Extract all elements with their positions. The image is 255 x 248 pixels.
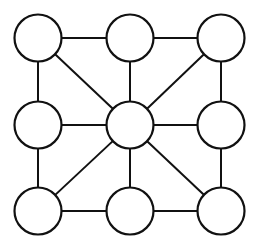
- graph-node-circle-top-left[interactable]: [15, 15, 62, 62]
- graph-node-middle-left[interactable]: [15, 102, 62, 149]
- graph-diagram: [0, 0, 255, 248]
- graph-node-circle-bottom-left[interactable]: [15, 188, 62, 235]
- node-layer: [15, 15, 245, 235]
- graph-node-middle-right[interactable]: [198, 102, 245, 149]
- graph-canvas: [0, 0, 255, 248]
- graph-node-center[interactable]: [107, 102, 154, 149]
- graph-node-circle-middle-left[interactable]: [15, 102, 62, 149]
- graph-node-bottom-center[interactable]: [107, 188, 154, 235]
- graph-node-circle-middle-right[interactable]: [198, 102, 245, 149]
- graph-node-circle-top-right[interactable]: [198, 15, 245, 62]
- graph-node-circle-bottom-right[interactable]: [198, 188, 245, 235]
- graph-edge-bottom-right-to-center: [146, 140, 204, 195]
- graph-edge-top-right-to-center: [146, 54, 204, 110]
- graph-node-circle-center[interactable]: [107, 102, 154, 149]
- graph-node-circle-top-center[interactable]: [107, 15, 154, 62]
- graph-node-bottom-right[interactable]: [198, 188, 245, 235]
- graph-node-circle-bottom-center[interactable]: [107, 188, 154, 235]
- graph-edge-bottom-left-to-center: [54, 140, 113, 195]
- graph-node-top-left[interactable]: [15, 15, 62, 62]
- graph-node-bottom-left[interactable]: [15, 188, 62, 235]
- graph-node-top-center[interactable]: [107, 15, 154, 62]
- graph-edge-top-left-to-center: [54, 53, 113, 109]
- graph-node-top-right[interactable]: [198, 15, 245, 62]
